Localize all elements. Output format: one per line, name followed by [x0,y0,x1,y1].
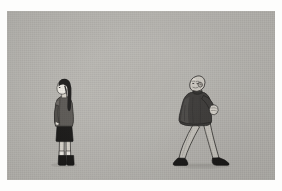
man-shoe-rear [173,158,188,165]
man-leg-front [203,122,219,159]
artwork-title: Girl and Walking Man [0,0,1,1]
image-canvas [7,11,275,180]
man-ear [198,82,203,87]
man-leg-rear [179,123,200,160]
illustration-scene: Girl and Walking Man A girl with long da… [0,0,282,191]
girl-boots [58,156,74,166]
figure-girl [51,79,77,167]
figure-layer [7,11,275,180]
figure-man-label: Man walking and looking back [0,0,1,1]
man-hand [209,105,218,115]
figure-girl-label: Girl standing in profile [0,0,1,1]
artwork-caption: A girl with long dark hair stands in pro… [0,0,1,1]
man-shoe-front [212,158,229,166]
figure-man [173,76,230,169]
